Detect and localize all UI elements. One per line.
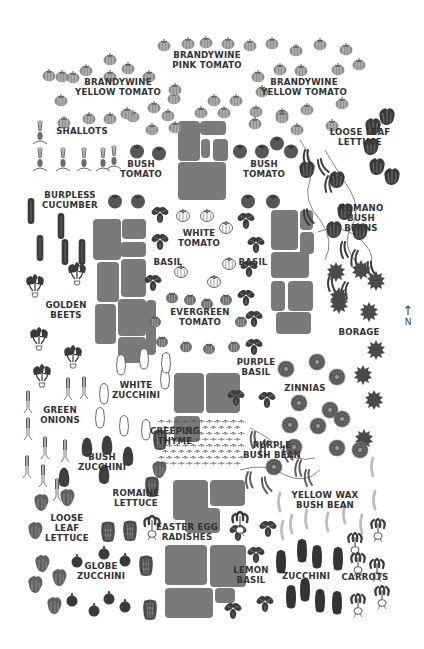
white-tomato-icon (201, 209, 214, 222)
shallot-icon (77, 147, 91, 171)
carrot-icon (375, 586, 388, 609)
white-zucchini-icon (117, 355, 126, 376)
romaine-icon (139, 556, 153, 577)
basil-icon (258, 520, 278, 537)
gray-tomato-icon (340, 43, 353, 55)
evergreen-tomato-icon (235, 317, 247, 328)
north-compass: ↑ N (401, 305, 415, 327)
gray-tomato-icon (290, 44, 303, 56)
dark-tomato-icon (255, 145, 269, 159)
gray-tomato-icon (250, 105, 263, 117)
stepping-stone (146, 300, 156, 355)
gray-tomato-icon (274, 63, 287, 75)
stepping-stone (210, 480, 245, 506)
white-zucchini-icon (140, 349, 149, 370)
label-evergreen-tomato: EVERGREEN TOMATO (170, 307, 229, 327)
label-brandywine-pink-tomato: BRANDYWINE PINK TOMATO (172, 50, 241, 70)
borage-icon (365, 390, 383, 410)
gray-tomato-icon (195, 106, 208, 118)
lettuce-dark-icon (299, 161, 314, 178)
yellow-bean-icon (279, 493, 281, 511)
gray-tomato-icon (169, 83, 182, 95)
gray-tomato-icon (121, 107, 134, 119)
label-basil-right: BASIL (238, 257, 267, 267)
loose-lettuce-icon (152, 461, 166, 478)
gray-tomato-icon (266, 37, 279, 49)
green-onion-icon (41, 436, 49, 459)
label-romaine-lettuce: ROMAINE LETTUCE (113, 488, 160, 508)
zinnia-icon (282, 417, 298, 433)
label-bush-zucchini: BUSH ZUCCHINI (78, 452, 126, 472)
zinnia-icon (309, 354, 325, 370)
basil-icon (236, 289, 256, 306)
lettuce-dark-icon (384, 168, 399, 185)
stepping-stone (271, 281, 285, 311)
label-white-zucchini: WHITE ZUCCHINI (112, 380, 160, 400)
evergreen-tomato-icon (220, 295, 232, 306)
basil-icon (236, 212, 256, 229)
stepping-stone (122, 219, 146, 239)
loose-lettuce-icon (28, 522, 42, 539)
zucchini-icon (333, 547, 343, 571)
label-brandywine-yellow-tomato-right: BRANDYWINE YELLOW TOMATO (261, 77, 347, 97)
stepping-stone (215, 588, 235, 603)
romaine-icon (123, 521, 137, 542)
label-bush-tomato-left: BUSH TOMATO (120, 159, 162, 179)
gray-tomato-icon (230, 94, 243, 106)
borage-icon (327, 262, 345, 282)
gray-tomato-icon (104, 53, 117, 65)
label-zinnias: ZINNIAS (284, 383, 325, 393)
gray-tomato-icon (104, 112, 117, 124)
stepping-stone (201, 139, 210, 158)
gray-tomato-icon (162, 109, 175, 121)
zucchini-icon (300, 578, 310, 602)
globe-zucchini-icon (120, 599, 131, 613)
gray-tomato-icon (353, 58, 366, 70)
gray-tomato-icon (208, 94, 221, 106)
label-bush-tomato-right: BUSH TOMATO (243, 159, 285, 179)
zinnia-icon (334, 411, 350, 427)
stepping-stone (120, 242, 146, 257)
stepping-stone (174, 373, 204, 413)
dark-tomato-icon (130, 145, 144, 159)
romaine-icon (143, 600, 157, 621)
gray-tomato-icon (80, 64, 93, 76)
gray-tomato-icon (56, 70, 69, 82)
gray-tomato-icon (332, 63, 345, 75)
zinnia-icon (278, 361, 294, 377)
dark-tomato-icon (284, 145, 298, 159)
stepping-stone (97, 262, 119, 302)
beet-icon (26, 274, 44, 297)
stepping-stone (288, 281, 313, 311)
green-onion-icon (39, 464, 47, 487)
evergreen-tomato-icon (180, 342, 192, 353)
basil-icon (244, 338, 264, 355)
label-brandywine-yellow-tomato-left: BRANDYWINE YELLOW TOMATO (75, 77, 161, 97)
loose-lettuce-icon (34, 494, 48, 511)
zucchini-icon (312, 545, 322, 569)
white-tomato-icon (177, 209, 190, 222)
basil-icon (257, 391, 277, 408)
zucchini-icon (297, 539, 307, 563)
lettuce-dark-icon (329, 171, 344, 188)
stepping-stone (165, 545, 207, 585)
basil-icon (255, 595, 275, 612)
bean-pod-icon (341, 242, 348, 258)
basil-icon (246, 236, 266, 253)
gray-tomato-icon (122, 62, 135, 74)
white-tomato-icon (208, 275, 221, 288)
evergreen-tomato-icon (149, 317, 161, 328)
evergreen-tomato-icon (156, 337, 168, 348)
label-purple-basil: PURPLE BASIL (237, 357, 276, 377)
label-purple-bush-bean: PURPLE BUSH BEAN (243, 440, 301, 460)
label-creeping-thyme: CREEPING THYME (150, 426, 200, 446)
zucchini-icon (315, 589, 325, 613)
basil-icon (150, 233, 170, 250)
lettuce-dark-icon (379, 108, 394, 125)
evergreen-tomato-icon (228, 342, 240, 353)
zucchini-icon (332, 591, 342, 615)
gray-tomato-icon (244, 39, 257, 51)
bean-pod-icon (294, 460, 304, 477)
label-easter-egg-radishes: EASTER EGG RADISHES (156, 522, 218, 542)
label-loose-leaf-lettuce-top: LOOSE LEAF LETTUCE (330, 127, 391, 147)
